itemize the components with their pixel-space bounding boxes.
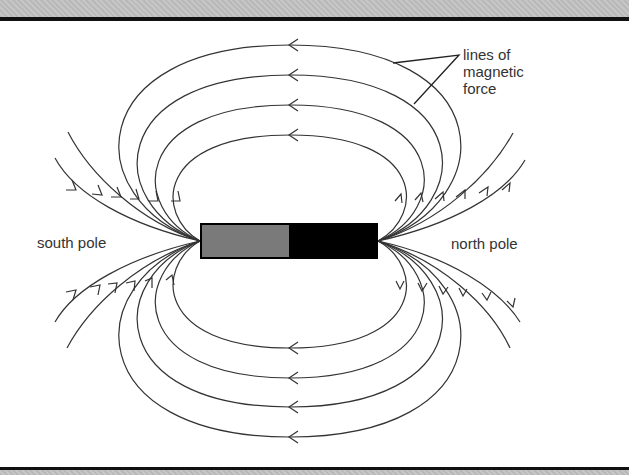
magnet-south-half xyxy=(201,224,289,258)
callout-line-3: force xyxy=(463,80,524,97)
south-pole-label: south pole xyxy=(37,234,106,251)
bottom-texture-band xyxy=(0,470,629,475)
callout-line-2: magnetic xyxy=(463,63,524,80)
magnet-north-half xyxy=(289,224,377,258)
bar-magnet xyxy=(201,224,377,258)
north-pole-label: north pole xyxy=(451,235,518,252)
callout-line-1: lines of xyxy=(463,46,524,63)
callout-label: lines of magnetic force xyxy=(463,46,524,97)
callout-pointer xyxy=(393,55,459,104)
